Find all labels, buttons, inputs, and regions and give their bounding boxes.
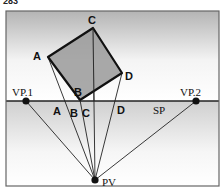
vertex-label-a: A: [33, 50, 41, 62]
vp1-label: VP.1: [12, 86, 33, 98]
vertex-label-d: D: [125, 70, 133, 82]
vertex-label-c: C: [88, 14, 96, 26]
plane-label-b: B: [70, 107, 78, 119]
vp2-dot: [192, 97, 199, 104]
ground-area: [6, 101, 219, 186]
vp1-dot: [22, 97, 29, 104]
pv-label: PV: [102, 176, 116, 188]
sp-label: SP: [153, 104, 165, 116]
vp2-label: VP.2: [180, 86, 201, 98]
perspective-diagram: A C D B A B C D VP.1 VP.2 SP PV: [0, 0, 223, 192]
plane-label-a: A: [53, 105, 61, 117]
plane-label-c: C: [82, 107, 90, 119]
pv-dot: [91, 176, 98, 183]
plane-label-d: D: [117, 104, 125, 116]
vertex-label-b: B: [74, 86, 82, 98]
